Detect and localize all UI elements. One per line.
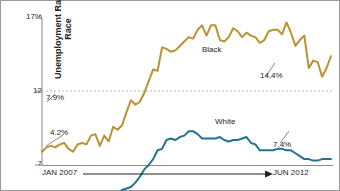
callout-black-start: 7.9% <box>46 93 64 102</box>
x-axis-end-label: JUN 2012 <box>273 168 309 177</box>
chart-figure: Unemployment Rate by Race 17% 12 7 Black… <box>0 0 340 191</box>
series-label-white: White <box>215 117 235 126</box>
x-axis-arrow <box>83 171 273 178</box>
x-axis-start-label: JAN 2007 <box>42 168 77 177</box>
series-label-black: Black <box>202 45 222 54</box>
callout-white-start: 4.2% <box>50 128 68 137</box>
callout-white-end: 7.4% <box>273 140 291 149</box>
callout-black-end: 14.4% <box>260 71 283 80</box>
